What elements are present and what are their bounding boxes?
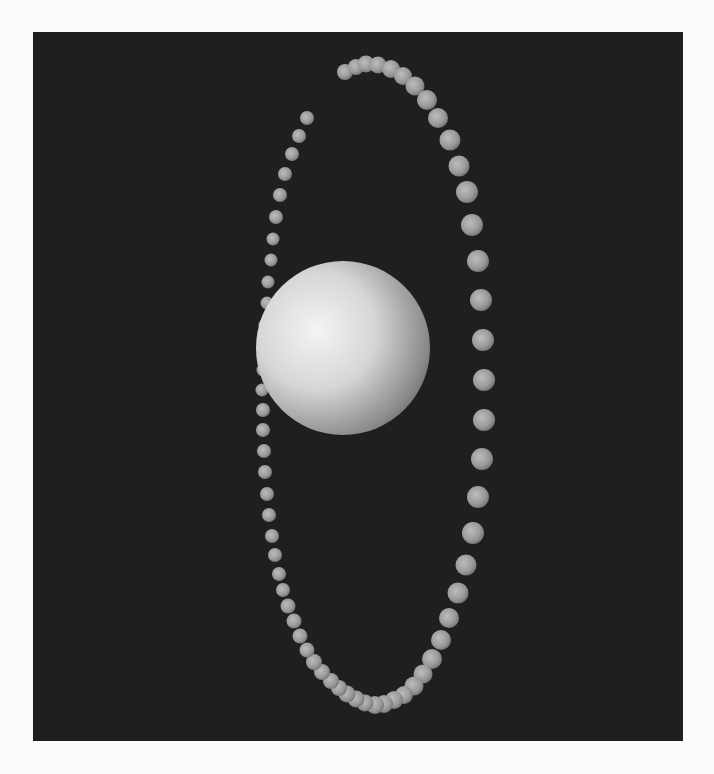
rendered-scene [0, 0, 714, 774]
ring-sphere [473, 369, 495, 391]
ring-sphere [300, 111, 314, 125]
ring-sphere [262, 508, 276, 522]
ring-sphere [300, 643, 315, 658]
ring-sphere [461, 214, 483, 236]
ring-sphere [456, 555, 477, 576]
ring-sphere [449, 156, 470, 177]
ring-sphere [257, 444, 271, 458]
ring-sphere [428, 108, 448, 128]
ring-sphere [281, 599, 296, 614]
ring-sphere [470, 289, 492, 311]
ring-sphere [285, 147, 299, 161]
ring-sphere [431, 630, 451, 650]
ring-sphere [265, 254, 278, 267]
ring-sphere [472, 329, 494, 351]
ring-sphere [272, 567, 286, 581]
ring-sphere [256, 403, 270, 417]
ring-sphere [462, 522, 484, 544]
ring-sphere [262, 276, 275, 289]
ring-sphere [273, 188, 287, 202]
ring-sphere [256, 423, 270, 437]
ring-sphere [260, 487, 274, 501]
ring-sphere [440, 130, 461, 151]
ring-sphere [269, 210, 283, 224]
ring-sphere [265, 529, 279, 543]
ring-sphere [467, 250, 489, 272]
ring-sphere [258, 465, 272, 479]
ring-sphere [417, 90, 437, 110]
ring-sphere [293, 629, 308, 644]
ring-sphere [268, 548, 282, 562]
ring-sphere [448, 583, 469, 604]
ring-sphere [292, 129, 306, 143]
ring-sphere [267, 233, 280, 246]
main-sphere [256, 261, 430, 435]
ring-sphere [471, 448, 493, 470]
ring-sphere [439, 608, 459, 628]
ring-sphere [467, 486, 489, 508]
ring-sphere [473, 409, 495, 431]
ring-sphere [278, 167, 292, 181]
ring-sphere [276, 583, 290, 597]
ring-sphere [287, 614, 302, 629]
ring-sphere [456, 181, 478, 203]
